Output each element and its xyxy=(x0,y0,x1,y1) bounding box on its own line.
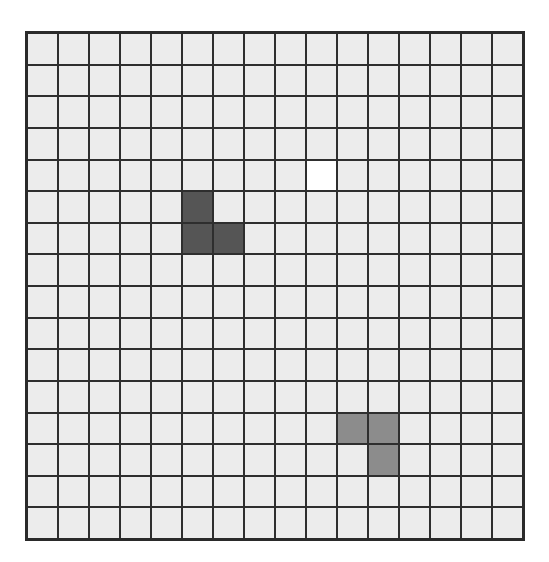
grid-cell[interactable] xyxy=(59,508,88,538)
grid-cell[interactable] xyxy=(431,66,460,96)
grid-cell[interactable] xyxy=(369,224,398,254)
grid-cell[interactable] xyxy=(369,350,398,380)
grid-cell[interactable] xyxy=(276,508,305,538)
grid-cell[interactable] xyxy=(338,97,367,127)
grid-cell[interactable] xyxy=(152,255,181,285)
grid-cell[interactable] xyxy=(338,161,367,191)
grid-cell[interactable] xyxy=(121,66,150,96)
grid-cell[interactable] xyxy=(462,224,491,254)
grid-cell[interactable] xyxy=(338,287,367,317)
grid-cell[interactable] xyxy=(431,192,460,222)
grid-cell[interactable] xyxy=(276,319,305,349)
grid-cell[interactable] xyxy=(462,287,491,317)
grid-cell[interactable] xyxy=(245,161,274,191)
grid-cell[interactable] xyxy=(121,350,150,380)
grid-cell[interactable] xyxy=(431,350,460,380)
grid-cell[interactable] xyxy=(152,382,181,412)
grid-cell[interactable] xyxy=(431,161,460,191)
grid-cell[interactable] xyxy=(90,255,119,285)
grid-cell[interactable] xyxy=(493,255,522,285)
grid-cell[interactable] xyxy=(121,255,150,285)
grid-cell[interactable] xyxy=(493,97,522,127)
grid-cell[interactable] xyxy=(307,66,336,96)
grid-cell[interactable] xyxy=(214,508,243,538)
grid-cell[interactable] xyxy=(462,350,491,380)
grid-cell[interactable] xyxy=(183,350,212,380)
grid-cell[interactable] xyxy=(245,255,274,285)
grid-cell[interactable] xyxy=(28,224,57,254)
grid-cell[interactable] xyxy=(493,224,522,254)
grid-cell[interactable] xyxy=(183,255,212,285)
grid-cell[interactable] xyxy=(400,477,429,507)
grid-cell[interactable] xyxy=(214,445,243,475)
grid-cell[interactable] xyxy=(59,34,88,64)
grid-cell[interactable] xyxy=(462,66,491,96)
grid-cell[interactable] xyxy=(400,445,429,475)
grid-cell[interactable] xyxy=(493,319,522,349)
grid-cell[interactable] xyxy=(90,34,119,64)
grid-cell[interactable] xyxy=(338,477,367,507)
grid-cell[interactable] xyxy=(152,350,181,380)
grid-cell[interactable] xyxy=(28,161,57,191)
grid-cell[interactable] xyxy=(121,97,150,127)
grid-cell[interactable] xyxy=(90,192,119,222)
grid-cell[interactable] xyxy=(338,129,367,159)
grid-cell[interactable] xyxy=(90,161,119,191)
grid-cell[interactable] xyxy=(431,477,460,507)
grid-cell[interactable] xyxy=(369,192,398,222)
grid-cell[interactable] xyxy=(338,445,367,475)
grid-cell[interactable] xyxy=(307,319,336,349)
grid-cell[interactable] xyxy=(493,477,522,507)
grid-cell[interactable] xyxy=(245,224,274,254)
grid-cell[interactable] xyxy=(183,97,212,127)
grid-cell[interactable] xyxy=(59,287,88,317)
grid-cell[interactable] xyxy=(338,34,367,64)
grid-cell[interactable] xyxy=(183,161,212,191)
grid-cell[interactable] xyxy=(462,319,491,349)
grid-cell[interactable] xyxy=(276,414,305,444)
grid-cell[interactable] xyxy=(462,508,491,538)
grid-cell[interactable] xyxy=(28,255,57,285)
grid-cell[interactable] xyxy=(152,287,181,317)
gray-piece-cell[interactable] xyxy=(369,414,398,444)
grid-cell[interactable] xyxy=(183,34,212,64)
grid-cell[interactable] xyxy=(338,224,367,254)
grid-cell[interactable] xyxy=(245,319,274,349)
grid-cell[interactable] xyxy=(369,287,398,317)
grid-cell[interactable] xyxy=(90,66,119,96)
grid-cell[interactable] xyxy=(183,287,212,317)
grid-cell[interactable] xyxy=(462,97,491,127)
grid-cell[interactable] xyxy=(121,508,150,538)
grid-cell[interactable] xyxy=(90,287,119,317)
grid-cell[interactable] xyxy=(214,382,243,412)
grid-cell[interactable] xyxy=(28,319,57,349)
gray-piece-cell[interactable] xyxy=(369,445,398,475)
grid-cell[interactable] xyxy=(152,97,181,127)
grid-cell[interactable] xyxy=(338,192,367,222)
grid-cell[interactable] xyxy=(59,97,88,127)
grid-cell[interactable] xyxy=(183,382,212,412)
grid-cell[interactable] xyxy=(90,129,119,159)
grid-cell[interactable] xyxy=(121,319,150,349)
grid-cell[interactable] xyxy=(121,192,150,222)
grid-cell[interactable] xyxy=(338,382,367,412)
grid-cell[interactable] xyxy=(28,508,57,538)
grid-cell[interactable] xyxy=(59,382,88,412)
grid-cell[interactable] xyxy=(338,66,367,96)
grid-cell[interactable] xyxy=(369,477,398,507)
grid-cell[interactable] xyxy=(400,192,429,222)
grid-cell[interactable] xyxy=(245,445,274,475)
grid-cell[interactable] xyxy=(245,508,274,538)
grid-cell[interactable] xyxy=(400,224,429,254)
dark-piece-cell[interactable] xyxy=(183,192,212,222)
gray-piece-cell[interactable] xyxy=(338,414,367,444)
grid-cell[interactable] xyxy=(400,66,429,96)
grid-cell[interactable] xyxy=(307,224,336,254)
grid-cell[interactable] xyxy=(121,161,150,191)
grid-cell[interactable] xyxy=(214,350,243,380)
grid-cell[interactable] xyxy=(276,445,305,475)
grid-cell[interactable] xyxy=(90,477,119,507)
grid-cell[interactable] xyxy=(28,97,57,127)
grid-cell[interactable] xyxy=(493,161,522,191)
grid-cell[interactable] xyxy=(369,66,398,96)
